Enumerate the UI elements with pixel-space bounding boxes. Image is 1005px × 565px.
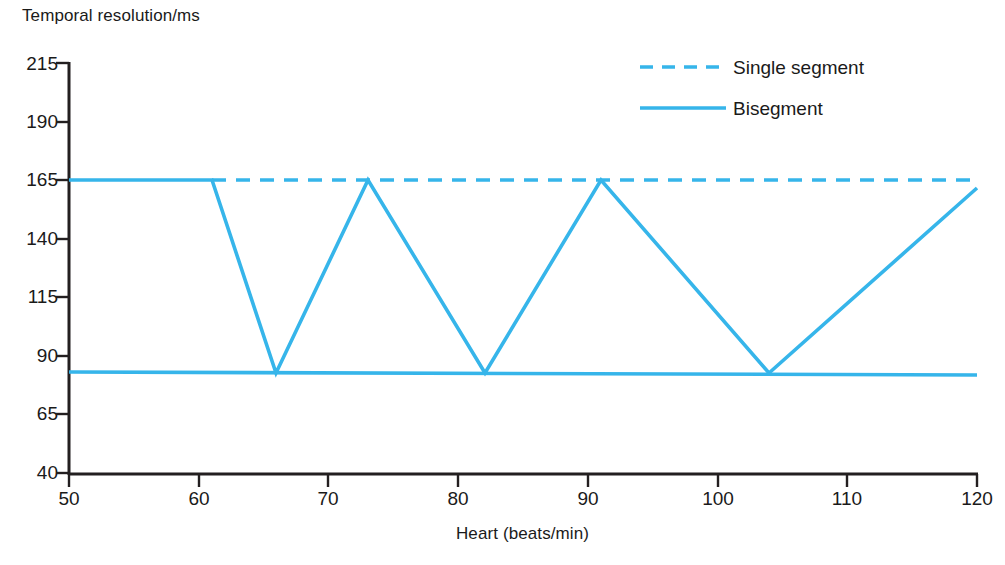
x-axis-ticks <box>69 474 977 487</box>
series-bisegment <box>69 180 977 373</box>
chart-canvas <box>0 0 1005 565</box>
series-bisegment-baseline <box>69 372 977 375</box>
y-axis-ticks <box>56 63 69 473</box>
axis-lines <box>69 62 978 475</box>
chart-figure: Temporal resolution/ms 215 190 165 140 1… <box>0 0 1005 565</box>
